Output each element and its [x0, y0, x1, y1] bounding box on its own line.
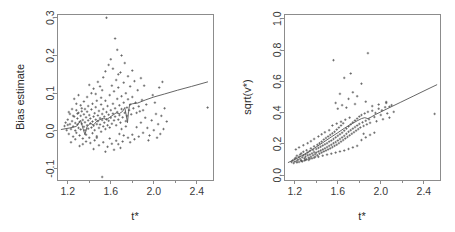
scatter-point [114, 115, 117, 118]
scatter-point [75, 132, 78, 135]
scatter-point [120, 54, 123, 57]
scatter-point [117, 86, 120, 89]
scatter-point [98, 110, 101, 113]
scatter-point [90, 126, 93, 129]
scatter-point [86, 110, 89, 113]
scatter-point [113, 119, 116, 122]
scatter-point [118, 114, 121, 117]
scatter-point [339, 133, 342, 136]
scatter-point [79, 104, 82, 107]
scatter-point [388, 116, 391, 119]
bias-estimate-plot: 1.21.62.02.4-0.10.00.10.20.3t*Bias estim… [0, 0, 227, 232]
y-tick-label: 0.1 [44, 86, 56, 101]
scatter-point [111, 143, 114, 146]
scatter-point [132, 107, 135, 110]
scatter-point [317, 147, 320, 150]
scatter-point [119, 121, 122, 124]
scatter-point [106, 146, 109, 149]
scatter-point [104, 128, 107, 130]
scatter-point [369, 134, 372, 137]
scatter-point [348, 134, 351, 137]
y-tick-label: 0.0 [271, 168, 283, 183]
scatter-point [332, 59, 335, 62]
y-tick-label: 1.0 [271, 11, 283, 26]
scatter-point [102, 125, 105, 128]
scatter-point [86, 96, 89, 99]
scatter-point [375, 120, 378, 123]
y-axis-title: Bias estimate [14, 64, 26, 130]
scatter-point [302, 144, 305, 147]
scatter-point [117, 73, 120, 76]
scatter-point [377, 103, 380, 106]
scatter-point [321, 144, 324, 147]
scatter-point [386, 112, 389, 115]
scatter-point [145, 103, 148, 106]
scatter-point [317, 135, 320, 138]
scatter-point [153, 129, 156, 132]
scatter-point [122, 134, 125, 137]
scatter-point [101, 113, 104, 116]
scatter-point [328, 145, 331, 148]
scatter-point [343, 149, 346, 152]
chart-panel-bias-estimate: 1.21.62.02.4-0.10.00.10.20.3t*Bias estim… [0, 0, 227, 232]
y-tick-label: 0.0 [44, 124, 56, 139]
scatter-point [343, 77, 346, 80]
scatter-point [365, 136, 368, 139]
scatter-point [135, 112, 138, 115]
scatter-point [131, 96, 134, 99]
scatter-point [155, 113, 158, 116]
scatter-point [324, 131, 327, 134]
x-tick-label: 2.0 [374, 185, 389, 197]
x-tick-label: 1.6 [103, 185, 118, 197]
scatter-point [113, 149, 116, 152]
scatter-point [99, 123, 102, 126]
scatter-point [319, 146, 322, 149]
scatter-point [313, 138, 316, 141]
scatter-point [117, 118, 120, 121]
scatter-point [310, 147, 313, 150]
scatter-point [71, 120, 74, 123]
scatter-point [157, 123, 160, 126]
scatter-point [150, 119, 153, 122]
scatter-point [335, 144, 338, 147]
scatter-point [106, 105, 109, 108]
x-axis-title: t* [358, 210, 366, 222]
x-tick-label: 1.2 [287, 185, 302, 197]
scatter-point [325, 149, 328, 152]
scatter-point [130, 113, 133, 116]
scatter-point [129, 141, 132, 144]
scatter-point [148, 134, 151, 137]
scatter-point [64, 121, 67, 124]
scatter-point [326, 153, 329, 156]
scatter-point [356, 117, 359, 120]
figure-container: 1.21.62.02.4-0.10.00.10.20.3t*Bias estim… [0, 0, 455, 232]
scatter-point [345, 133, 348, 136]
scatter-point [104, 100, 107, 103]
scatter-point [79, 115, 82, 118]
scatter-point [119, 147, 122, 150]
scatter-point [351, 133, 354, 136]
scatter-point [107, 113, 110, 116]
scatter-point [80, 110, 83, 113]
scatter-point [140, 121, 143, 124]
scatter-point [355, 129, 358, 132]
scatter-point [115, 79, 118, 82]
scatter-point [327, 148, 330, 151]
scatter-point [334, 102, 337, 105]
scatter-point [339, 93, 342, 96]
scatter-point [357, 128, 360, 131]
scatter-point [298, 146, 301, 149]
scatter-point [74, 129, 77, 132]
scatter-point [97, 81, 100, 84]
scatter-point [116, 49, 119, 52]
scatter-point [339, 150, 342, 153]
scatter-point [156, 136, 159, 139]
scatter-point [344, 118, 347, 121]
scatter-point [125, 92, 128, 95]
scatter-point [83, 100, 86, 103]
scatter-point [347, 131, 350, 134]
scatter-point [114, 37, 117, 40]
scatter-point [324, 147, 327, 150]
scatter-point [146, 127, 149, 130]
scatter-point [356, 95, 359, 98]
